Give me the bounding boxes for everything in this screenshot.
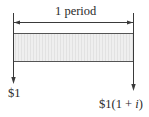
start-cash-flow-label: $1: [8, 87, 21, 100]
end-label-suffix: ): [139, 97, 143, 111]
period-label: 1 period: [55, 5, 96, 18]
right-arrowhead-icon: [127, 21, 133, 25]
end-cash-flow-label: $1(1 + i): [99, 98, 143, 111]
cash-flow-diagram: 1 period $1 $1(1 + i): [0, 0, 149, 117]
end-label-prefix: $1(1 +: [99, 97, 135, 111]
end-cash-flow-arrow-icon: [131, 84, 135, 91]
start-cash-flow-arrow-icon: [11, 77, 15, 84]
period-box: [14, 34, 134, 62]
left-arrowhead-icon: [14, 21, 20, 25]
